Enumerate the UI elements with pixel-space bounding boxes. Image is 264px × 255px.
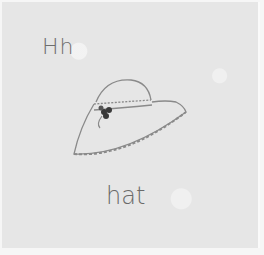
- hat-illustration: [66, 72, 196, 162]
- quilt-block: Hh hat: [2, 2, 260, 248]
- word-label: hat: [106, 182, 145, 210]
- letter-label: Hh: [42, 34, 75, 59]
